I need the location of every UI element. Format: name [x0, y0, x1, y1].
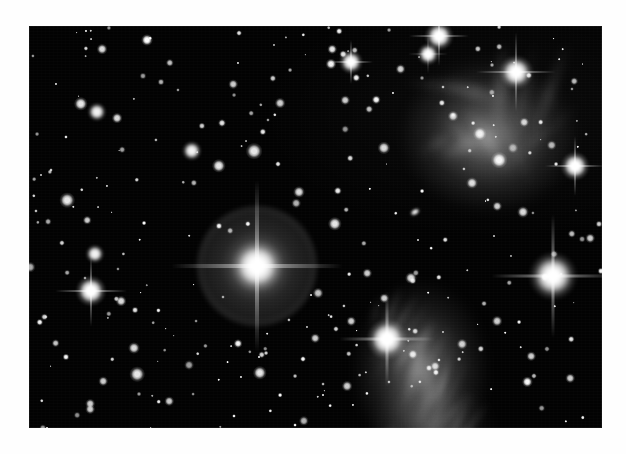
astrophoto-image: [29, 26, 602, 428]
elongated-blob: [408, 206, 421, 218]
page-root: Deep-sky photograph of a star cluster wi…: [0, 0, 626, 454]
plate-artifacts: [29, 26, 602, 428]
